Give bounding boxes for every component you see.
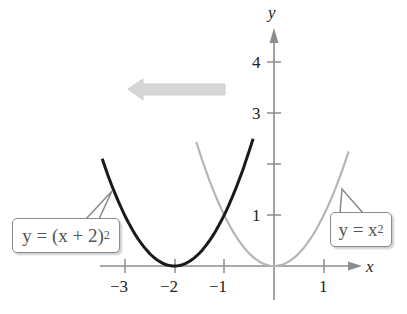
- callout-pointer-left: [86, 191, 112, 219]
- y-tick-label: 1: [252, 207, 261, 224]
- callout-exponent: 2: [104, 228, 110, 243]
- callout-text: y = (x + 2): [22, 225, 104, 247]
- x-tick-label: 1: [319, 278, 328, 295]
- y-axis-arrowhead-icon: [270, 28, 279, 43]
- shift-left-arrow-icon: [128, 79, 225, 100]
- y-axis-label: y: [268, 4, 276, 21]
- x-axis-label: x: [366, 258, 374, 275]
- x-axis-arrowhead-icon: [348, 262, 362, 271]
- callout-text: y = x: [338, 219, 377, 241]
- curve-y-equals-x-plus-2-squared: [102, 139, 253, 266]
- callout-label-base: y = x2: [330, 212, 392, 247]
- callout-label-shifted: y = (x + 2)2: [12, 218, 120, 253]
- callout-pointer-right: [340, 189, 363, 213]
- x-tick-label: −3: [110, 278, 128, 295]
- curve-y-equals-x-squared: [196, 142, 348, 266]
- x-tick-label: −1: [209, 278, 227, 295]
- graph-canvas: [0, 0, 407, 314]
- y-tick-label: 4: [252, 54, 261, 71]
- x-tick-label: −2: [160, 278, 178, 295]
- callout-exponent: 2: [378, 222, 384, 237]
- y-tick-label: 3: [252, 105, 261, 122]
